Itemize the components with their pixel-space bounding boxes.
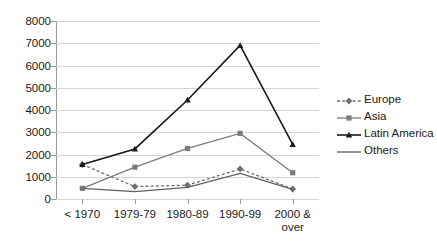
data-point-marker [290, 170, 295, 175]
x-axis-tick [82, 199, 83, 204]
data-point-marker [346, 115, 351, 120]
x-axis-tick [293, 199, 294, 204]
legend-item-label: Asia [364, 110, 386, 122]
data-point-marker [237, 42, 243, 48]
data-point-marker [132, 183, 139, 190]
data-point-marker [290, 141, 296, 147]
y-axis-tick-label: 8000 [25, 15, 51, 27]
legend-key-swatch [336, 127, 362, 139]
y-axis-tick [51, 199, 56, 200]
chart-legend: EuropeAsiaLatin AmericaOthers [336, 90, 434, 158]
data-point-marker [132, 165, 137, 170]
legend-item-europe[interactable]: Europe [336, 90, 434, 107]
x-axis-tick [240, 199, 241, 204]
y-axis-tick-label: 4000 [25, 104, 51, 116]
legend-item-latin-america[interactable]: Latin America [336, 124, 434, 141]
legend-item-label: Others [364, 144, 399, 156]
data-point-marker [237, 166, 244, 173]
plot-area [56, 21, 319, 199]
y-axis-tick-label: 6000 [25, 60, 51, 72]
y-axis-tick-label: 5000 [25, 82, 51, 94]
y-axis-tick-label: 2000 [25, 149, 51, 161]
y-axis-labels: 010002000300040005000600070008000 [0, 21, 51, 199]
x-axis-tick [188, 199, 189, 204]
data-point-marker [346, 97, 353, 104]
x-axis-tick-label: 2000 & over [258, 208, 328, 234]
legend-item-label: Europe [364, 93, 401, 105]
y-axis-tick-label: 7000 [25, 37, 51, 49]
line-chart: 010002000300040005000600070008000 < 1970… [0, 0, 437, 247]
data-point-marker [238, 131, 243, 136]
series-layer [56, 21, 319, 199]
legend-item-others[interactable]: Others [336, 141, 434, 158]
y-axis-tick-label: 1000 [25, 171, 51, 183]
legend-item-label: Latin America [364, 127, 434, 139]
legend-key-swatch [336, 110, 362, 122]
data-point-marker [185, 146, 190, 151]
legend-key-swatch [336, 144, 362, 156]
legend-item-asia[interactable]: Asia [336, 107, 434, 124]
x-axis-tick [135, 199, 136, 204]
legend-key-swatch [336, 93, 362, 105]
y-axis-tick-label: 3000 [25, 126, 51, 138]
